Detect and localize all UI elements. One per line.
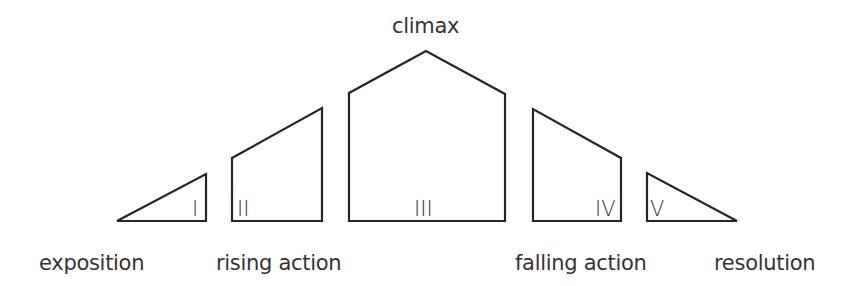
exposition-label: exposition — [39, 251, 144, 275]
numeral-ii: II — [237, 197, 249, 221]
numeral-iv: IV — [595, 197, 616, 221]
climax-label: climax — [392, 14, 459, 38]
numeral-iii: III — [414, 197, 433, 221]
numeral-i: I — [192, 197, 198, 221]
rising-action-label: rising action — [216, 251, 341, 275]
stage-shape-climax — [349, 51, 505, 221]
falling-action-label: falling action — [515, 251, 647, 275]
resolution-label: resolution — [714, 251, 815, 275]
freytag-pyramid-diagram: I II III IV V — [0, 0, 858, 286]
numeral-v: V — [650, 197, 664, 221]
